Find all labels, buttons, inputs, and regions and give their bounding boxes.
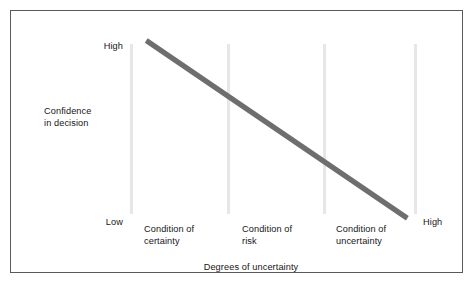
figure-container: High Low Confidence in decision Conditio… [0, 0, 475, 287]
x-axis-tick-high: High [423, 216, 463, 228]
confidence-trend-line [146, 40, 407, 218]
category-label-certainty: Condition of certainty [144, 223, 234, 247]
y-axis-title: Confidence in decision [44, 105, 124, 129]
y-axis-tick-high: High [89, 40, 123, 52]
y-axis-tick-low: Low [89, 216, 123, 228]
category-label-uncertainty: Condition of uncertainty [336, 223, 426, 247]
x-axis-title: Degrees of uncertainty [146, 261, 356, 273]
category-label-risk: Condition of risk [242, 223, 332, 247]
figure-frame: High Low Confidence in decision Conditio… [10, 10, 463, 273]
